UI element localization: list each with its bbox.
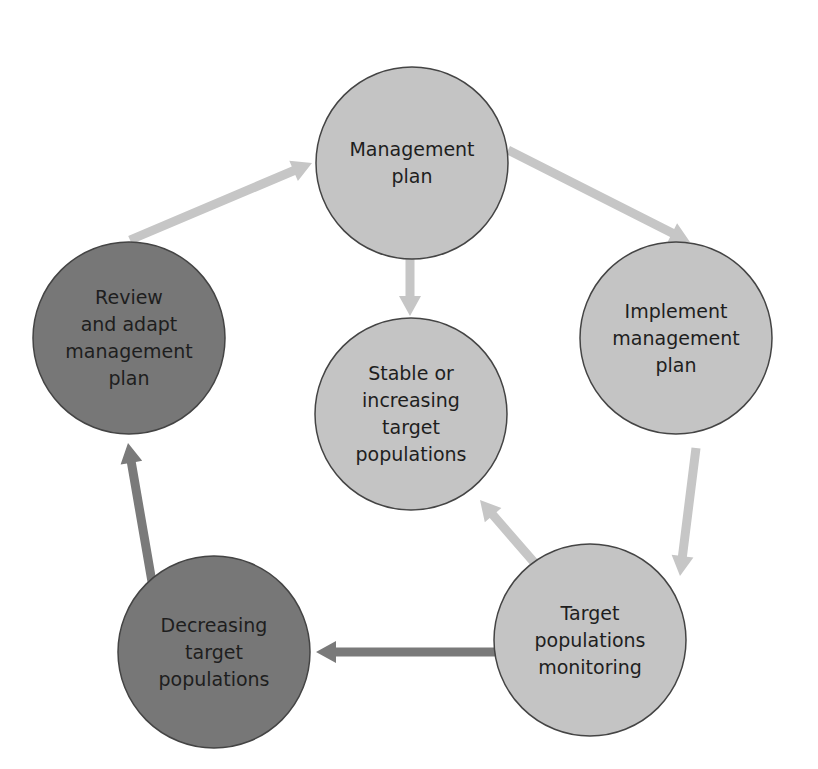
node-stable-or-increasing (315, 318, 507, 510)
node-decreasing-target-populations (118, 556, 310, 748)
arrow-management-plan-to-implement-management-plan (506, 146, 690, 243)
node-management-plan (316, 67, 508, 259)
adaptive-management-cycle-diagram: Management planImplement management plan… (0, 0, 818, 769)
arrow-management-plan-to-stable-or-increasing (399, 252, 421, 316)
arrow-decreasing-target-populations-to-review-and-adapt (121, 443, 157, 583)
node-implement-management-plan (580, 242, 772, 434)
diagram-canvas (0, 0, 818, 769)
nodes-layer (33, 67, 772, 748)
arrow-implement-management-plan-to-target-populations-monitoring (672, 447, 701, 576)
node-review-and-adapt (33, 242, 225, 434)
node-target-populations-monitoring (494, 544, 686, 736)
arrow-target-populations-monitoring-to-decreasing-target-populations (316, 641, 518, 663)
arrow-review-and-adapt-to-management-plan (128, 161, 312, 244)
